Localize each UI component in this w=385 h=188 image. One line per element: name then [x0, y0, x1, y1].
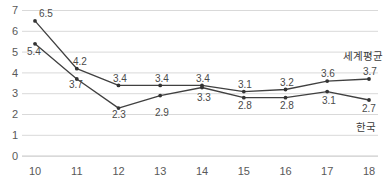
data-label-world-16: 3.2 [280, 78, 294, 88]
data-label-world-11: 4.2 [73, 57, 87, 67]
y-tick-7: 7 [4, 5, 18, 16]
y-tick-5: 5 [4, 47, 18, 58]
data-label-world-12: 3.4 [113, 74, 127, 84]
data-label-korea-12: 2.3 [112, 110, 126, 120]
x-tick-13: 13 [145, 166, 175, 177]
series-label-korea: 한국 [356, 122, 376, 133]
y-tick-0: 0 [4, 151, 18, 162]
line-chart: 7 6 5 4 3 2 1 0 10 11 12 13 14 15 16 17 … [0, 0, 385, 188]
y-tick-6: 6 [4, 26, 18, 37]
y-tick-3: 3 [4, 88, 18, 99]
data-label-world-18: 3.7 [363, 67, 377, 77]
y-tick-1: 1 [4, 130, 18, 141]
data-label-korea-14: 3.3 [197, 93, 211, 103]
x-tick-14: 14 [187, 166, 217, 177]
x-tick-12: 12 [104, 166, 134, 177]
x-tick-18: 18 [354, 166, 384, 177]
data-label-korea-15: 2.8 [238, 101, 252, 111]
data-label-world-10: 6.5 [39, 9, 53, 19]
series-label-world-average: 세계평균 [343, 51, 383, 62]
data-label-korea-13: 2.9 [155, 108, 169, 118]
data-label-korea-10: 5.4 [27, 47, 41, 57]
x-tick-17: 17 [312, 166, 342, 177]
x-tick-10: 10 [20, 166, 50, 177]
chart-canvas [0, 0, 385, 188]
data-label-korea-16: 2.8 [280, 101, 294, 111]
data-label-world-14: 3.4 [196, 74, 210, 84]
data-label-world-15: 3.1 [238, 80, 252, 90]
data-label-korea-18: 2.7 [362, 104, 376, 114]
data-label-korea-17: 3.1 [322, 96, 336, 106]
data-label-world-13: 3.4 [155, 74, 169, 84]
x-tick-15: 15 [229, 166, 259, 177]
x-tick-11: 11 [62, 166, 92, 177]
data-label-world-17: 3.6 [321, 69, 335, 79]
x-tick-16: 16 [271, 166, 301, 177]
y-tick-4: 4 [4, 68, 18, 79]
data-label-korea-11: 3.7 [69, 80, 83, 90]
y-tick-2: 2 [4, 109, 18, 120]
